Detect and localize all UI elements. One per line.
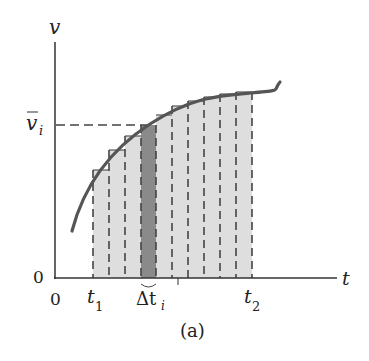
v-bar-subscript: i: [39, 123, 43, 138]
delta-t-subscript: i: [161, 299, 165, 313]
figure-caption: (a): [180, 320, 205, 341]
t1-label: t: [87, 285, 95, 307]
strip-9: [220, 94, 236, 278]
strip-6: [172, 106, 188, 278]
v-bar-label: v: [26, 111, 38, 135]
strip-4-highlighted: [141, 125, 156, 278]
t1-subscript: 1: [95, 299, 103, 314]
delta-t-label: Δt: [136, 288, 157, 309]
strip-3: [125, 136, 141, 278]
strip-5: [156, 115, 172, 278]
strip-10: [236, 92, 252, 278]
riemann-sum-diagram: v t 0 0 v i t 1 Δt i t 2 (a): [0, 0, 369, 361]
y-origin-label: 0: [33, 267, 44, 287]
strip-2: [109, 150, 125, 278]
t2-label: t: [244, 285, 252, 307]
strip-7: [188, 101, 204, 278]
strip-8: [204, 97, 220, 278]
x-axis-label: t: [342, 267, 350, 289]
strip-1: [93, 170, 109, 278]
x-origin-label: 0: [50, 289, 61, 309]
t2-subscript: 2: [252, 299, 260, 314]
delta-brace: [141, 284, 156, 287]
y-axis-label: v: [49, 15, 61, 39]
